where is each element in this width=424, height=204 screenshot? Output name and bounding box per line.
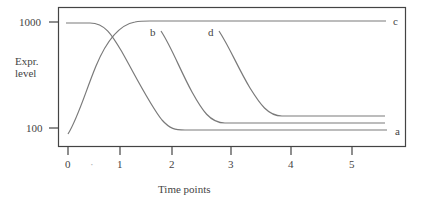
series-label-b: b	[150, 26, 156, 38]
series-label-d: d	[208, 26, 214, 38]
x-axis-label: Time points	[158, 183, 210, 195]
curve-b	[161, 31, 385, 123]
y-tick-label-1000: 1000	[19, 16, 41, 28]
x-tick-label-5: 5	[349, 158, 355, 170]
x-tick-label-dot: ·	[90, 158, 94, 170]
plot-frame	[59, 8, 406, 147]
x-tick-label-3: 3	[228, 158, 234, 170]
y-axis-label-line1: Expr.	[15, 55, 39, 67]
x-tick-label-4: 4	[288, 158, 294, 170]
curve-a	[66, 23, 387, 130]
curve-c	[68, 21, 386, 134]
series-label-c: c	[393, 15, 398, 27]
y-axis-label-line2: level	[15, 67, 36, 79]
series-label-a: a	[395, 125, 400, 137]
x-tick-label-2: 2	[169, 158, 175, 170]
curve-d	[219, 31, 385, 116]
x-tick-label-1: 1	[117, 158, 123, 170]
y-tick-label-100: 100	[26, 122, 43, 134]
x-tick-label-0: 0	[65, 158, 71, 170]
